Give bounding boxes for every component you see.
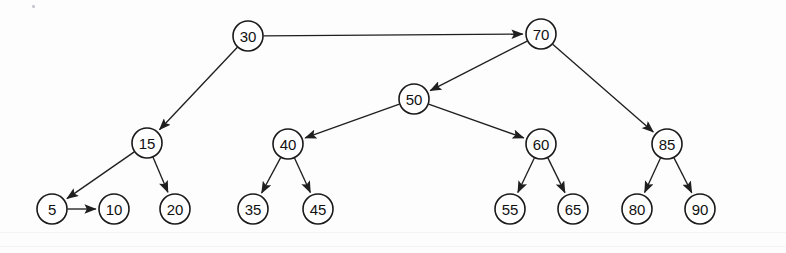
tree-node[interactable]: 90 (685, 194, 715, 224)
scan-band (0, 246, 786, 247)
tree-node[interactable]: 85 (652, 129, 682, 159)
tree-edge (159, 47, 237, 129)
tree-node[interactable]: 5 (37, 194, 67, 224)
tree-edge (153, 157, 168, 192)
node-label: 15 (139, 135, 155, 152)
tree-diagram-canvas: 3070501540608551020354555658090 (0, 0, 786, 253)
tree-edge (674, 158, 692, 193)
tree-node[interactable]: 50 (399, 84, 429, 114)
tree-node[interactable]: 70 (526, 19, 556, 49)
node-label: 80 (629, 201, 645, 218)
node-label: 85 (659, 136, 675, 153)
scan-band (0, 232, 786, 233)
tree-edge (262, 158, 281, 193)
node-label: 5 (48, 201, 56, 218)
node-label: 65 (565, 201, 581, 218)
tree-node[interactable]: 30 (233, 21, 263, 51)
node-label: 50 (406, 91, 422, 108)
tree-edge (67, 152, 134, 199)
tree-edge (645, 158, 661, 192)
tree-edge (548, 158, 565, 193)
tree-edge (429, 104, 524, 138)
binary-search-tree-svg: 3070501540608551020354555658090 (0, 0, 786, 253)
tree-node[interactable]: 80 (622, 194, 652, 224)
node-label: 45 (310, 201, 326, 218)
node-label: 10 (106, 201, 122, 218)
node-label: 90 (692, 201, 708, 218)
tree-node[interactable]: 40 (273, 129, 303, 159)
node-label: 20 (167, 201, 183, 218)
scan-speck (32, 5, 35, 8)
node-label: 30 (240, 28, 256, 45)
tree-edge (430, 41, 527, 91)
tree-node[interactable]: 35 (238, 194, 268, 224)
edges-layer (67, 34, 692, 209)
node-label: 35 (245, 201, 261, 218)
node-label: 55 (502, 201, 518, 218)
tree-edge (295, 158, 311, 192)
tree-node[interactable]: 15 (132, 128, 162, 158)
node-label: 70 (533, 26, 549, 43)
tree-edge (518, 158, 535, 193)
tree-node[interactable]: 10 (99, 194, 129, 224)
tree-edge (305, 104, 399, 138)
node-label: 60 (533, 136, 549, 153)
nodes-layer: 3070501540608551020354555658090 (37, 19, 715, 224)
tree-node[interactable]: 65 (558, 194, 588, 224)
node-label: 40 (280, 136, 296, 153)
tree-node[interactable]: 55 (495, 194, 525, 224)
tree-edge (553, 44, 654, 132)
tree-node[interactable]: 60 (526, 129, 556, 159)
tree-edge (264, 34, 523, 36)
tree-node[interactable]: 45 (303, 194, 333, 224)
tree-node[interactable]: 20 (160, 194, 190, 224)
